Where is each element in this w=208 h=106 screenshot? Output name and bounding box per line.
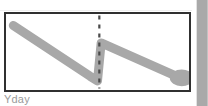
right-strip-divider [196, 0, 197, 106]
sketch-chart-svg [6, 14, 189, 90]
x-axis-label: Yday [4, 93, 64, 106]
sketch-chart-panel[interactable] [4, 12, 191, 92]
right-edge-strip[interactable] [196, 0, 208, 106]
top-hairline-divider [0, 10, 192, 11]
screenshot-root: Yday [0, 0, 208, 106]
